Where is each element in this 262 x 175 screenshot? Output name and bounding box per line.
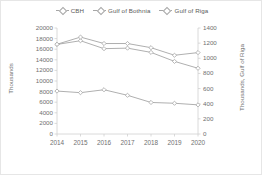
chart-card: CBH Gulf of Bothnia Gulf of Riga 0200040…	[0, 0, 262, 175]
y-axis-left-title: Thousands	[7, 51, 14, 107]
y-axis-right-tick: 0	[203, 130, 223, 137]
y-axis-left-tick: 12000	[15, 66, 53, 73]
y-axis-left-tick: 4000	[15, 109, 53, 116]
plot-area: 0200040006000800010000120001400016000180…	[1, 1, 262, 175]
y-axis-left-tick: 10000	[15, 77, 53, 84]
y-axis-right-tick: 1400	[203, 24, 223, 31]
y-axis-left-tick: 20000	[15, 24, 53, 31]
y-axis-right-tick: 1000	[203, 54, 223, 61]
y-axis-right-tick: 1200	[203, 39, 223, 46]
y-axis-left-tick: 18000	[15, 35, 53, 42]
y-axis-left-tick: 0	[15, 130, 53, 137]
y-axis-left-tick: 2000	[15, 119, 53, 126]
y-axis-right-tick: 800	[203, 69, 223, 76]
x-axis-tick: 2020	[184, 139, 212, 146]
series-cbh	[55, 88, 200, 107]
y-axis-left-tick: 6000	[15, 98, 53, 105]
series-gulf-of-riga	[55, 35, 200, 57]
y-axis-right-tick: 400	[203, 100, 223, 107]
y-axis-left-tick: 14000	[15, 56, 53, 63]
y-axis-left-tick: 16000	[15, 45, 53, 52]
y-axis-right-title: Thousands, Gulf of Riga	[238, 35, 245, 121]
y-axis-left-tick: 8000	[15, 88, 53, 95]
y-axis-right-tick: 200	[203, 115, 223, 122]
y-axis-right-tick: 600	[203, 85, 223, 92]
